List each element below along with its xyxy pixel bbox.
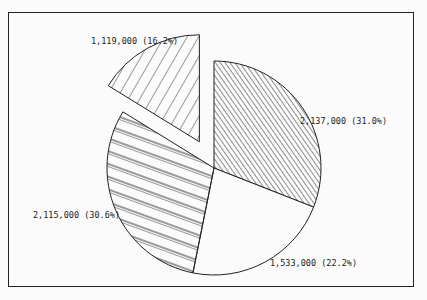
pie-chart: 2,137,000 (31.0%)1,533,000 (22.2%)2,115,… bbox=[0, 0, 427, 300]
slice-label: 1,119,000 (16.2%) bbox=[91, 36, 178, 46]
slice-label: 2,115,000 (30.6%) bbox=[33, 210, 120, 220]
slice-label: 1,533,000 (22.2%) bbox=[270, 258, 357, 268]
slice-label: 2,137,000 (31.0%) bbox=[300, 116, 387, 126]
pie-slices bbox=[107, 35, 321, 275]
